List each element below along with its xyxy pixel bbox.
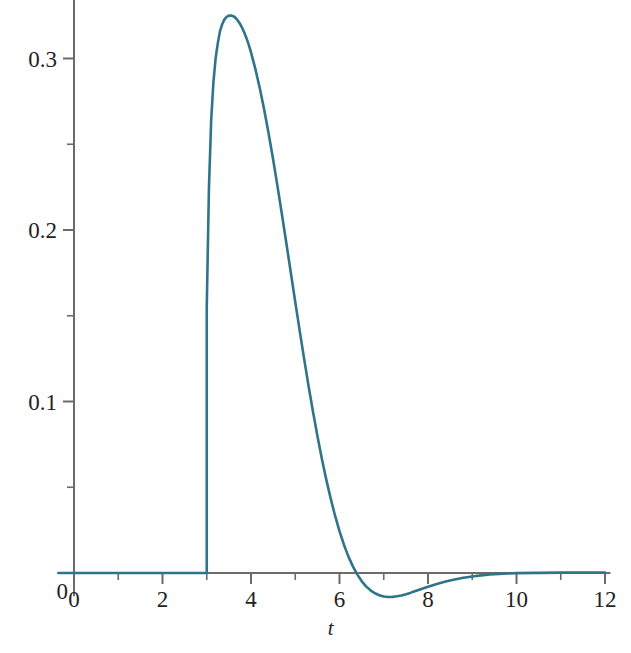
- x-tick-label: 4: [245, 587, 257, 612]
- x-axis-tick-labels: 024681012: [68, 587, 616, 612]
- y-tick-label: 0.1: [28, 390, 57, 415]
- y-axis-tick-labels: 00.10.20.3: [28, 47, 68, 605]
- y-tick-label: 0.2: [28, 218, 57, 243]
- plot-canvas: 024681012 00.10.20.3 t: [0, 0, 631, 653]
- data-curve-y-of-t: [59, 15, 605, 597]
- y-tick-label: 0: [57, 579, 69, 604]
- x-tick-label: 10: [505, 587, 528, 612]
- axis-lines: [59, 0, 610, 595]
- x-tick-label: 2: [157, 587, 169, 612]
- x-axis-label: t: [328, 616, 335, 640]
- y-axis-ticks: [63, 59, 74, 488]
- x-tick-label: 12: [594, 587, 617, 612]
- x-tick-label: 0: [68, 587, 80, 612]
- x-tick-label: 8: [422, 587, 434, 612]
- chart-figure: 024681012 00.10.20.3 t: [0, 0, 631, 653]
- x-axis-ticks: [74, 573, 605, 584]
- x-tick-label: 6: [334, 587, 346, 612]
- y-tick-label: 0.3: [28, 47, 57, 72]
